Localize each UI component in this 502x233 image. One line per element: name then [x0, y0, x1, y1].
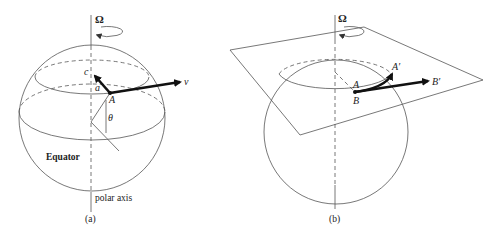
label-v: v [184, 76, 189, 87]
label-A: A [108, 94, 116, 105]
point-AB-dot [353, 90, 357, 94]
caption-a: (a) [85, 214, 96, 225]
equator-front [19, 112, 165, 140]
sphere-outline [19, 45, 165, 191]
rotation-arrow-icon [97, 26, 123, 36]
latitude-circle-front [35, 77, 149, 94]
figure: Ω θ c a A v Equator polar axis (a) [0, 0, 502, 233]
label-c: c [84, 66, 89, 77]
label-B-b: B [353, 95, 359, 106]
panel-a: Ω θ c a A v Equator polar axis (a) [19, 13, 189, 225]
rotation-arrow-icon-b [340, 27, 364, 37]
polar-axis-label: polar axis [95, 193, 133, 203]
label-a: a [95, 82, 100, 93]
theta-label: θ [108, 112, 113, 123]
latitude-circle-back [35, 60, 149, 77]
vector-B-to-B-prime [355, 81, 428, 92]
label-A-b: A [352, 79, 360, 90]
panel-b: Ω A B A′ B′ (b) [230, 12, 483, 225]
omega-label: Ω [95, 13, 104, 25]
label-A-prime: A′ [391, 61, 401, 72]
label-B-prime: B′ [432, 76, 441, 87]
caption-b: (b) [329, 214, 340, 225]
radius-to-equator [91, 122, 119, 151]
equator-label: Equator [46, 152, 81, 162]
omega-label-b: Ω [338, 12, 347, 24]
